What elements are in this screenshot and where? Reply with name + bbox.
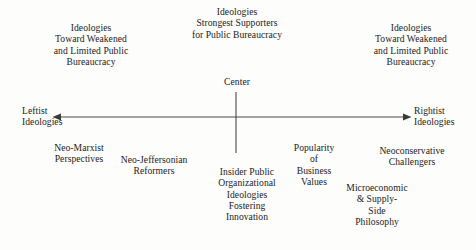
ideology-spectrum-diagram: Ideologies Toward Weakened and Limited P… [0, 0, 476, 250]
label-neoconservative-challengers: Neoconservative Challengers [360, 145, 464, 168]
label-neo-jeffersonian-reformers: Neo-Jeffersonian Reformers [114, 154, 194, 177]
label-microeconomic-supply-side-philosophy: Microeconomic & Supply- Side Philosophy [334, 182, 420, 227]
label-top-right-weakened-bureaucracy: Ideologies Toward Weakened and Limited P… [349, 22, 473, 67]
axis-right-pole-label: Rightist Ideologies [414, 105, 468, 128]
label-insider-public-organizational-ideologies: Insider Public Organizational Ideologies… [204, 166, 290, 223]
label-top-left-weakened-bureaucracy: Ideologies Toward Weakened and Limited P… [29, 22, 153, 67]
label-neo-marxist-perspectives: Neo-Marxist Perspectives [41, 142, 117, 165]
label-top-center-strongest-supporters: Ideologies Strongest Supporters for Publ… [181, 6, 293, 40]
axis-center-label: Center [206, 76, 268, 87]
label-popularity-of-business-values: Popularity of Business Values [288, 142, 340, 187]
axis-left-pole-label: Leftist Ideologies [22, 105, 68, 128]
